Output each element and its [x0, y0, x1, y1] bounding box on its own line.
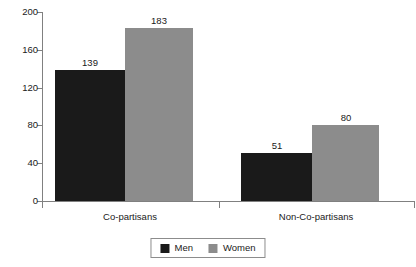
bar-copartisans-men[interactable] [55, 70, 125, 201]
legend-label-men: Men [174, 242, 192, 254]
x-axis-line [42, 201, 415, 202]
bar-value-copartisans-women: 183 [151, 15, 167, 27]
y-tick-label: 40 [27, 156, 38, 169]
x-axis-tick-start [42, 202, 43, 208]
x-axis-tick-end [414, 202, 415, 208]
y-tick-label: 160 [22, 43, 38, 56]
legend-item-women[interactable]: Women [209, 242, 256, 254]
bar-chart: 0 40 80 120 160 200 139 183 51 80 Co-par… [0, 0, 416, 267]
bar-noncopartisans-men[interactable] [241, 153, 312, 201]
legend-label-women: Women [223, 242, 256, 254]
x-axis-tick-middle [219, 202, 220, 208]
x-category-label-copartisans: Co-partisans [103, 210, 157, 224]
chart-legend: Men Women [150, 238, 265, 258]
bar-value-noncopartisans-women: 80 [341, 112, 352, 124]
bar-value-noncopartisans-men: 51 [272, 140, 283, 152]
y-tick-label: 120 [22, 81, 38, 94]
legend-swatch-women-icon [209, 244, 218, 253]
bar-copartisans-women[interactable] [125, 28, 193, 201]
legend-item-men[interactable]: Men [160, 242, 192, 254]
y-tick-label: 0 [33, 194, 38, 207]
plot-area [42, 12, 416, 201]
y-tick-label: 80 [27, 118, 38, 131]
legend-swatch-men-icon [160, 244, 169, 253]
x-category-label-noncopartisans: Non-Co-partisans [279, 210, 353, 224]
bar-value-copartisans-men: 139 [82, 57, 98, 69]
y-tick-label: 200 [22, 5, 38, 18]
bar-noncopartisans-women[interactable] [312, 125, 379, 201]
